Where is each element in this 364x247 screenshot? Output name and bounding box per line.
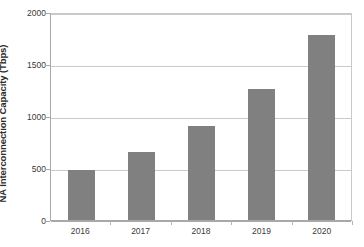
x-axis-tickmark (231, 221, 232, 225)
bar[interactable] (248, 89, 275, 220)
gridline (51, 221, 351, 222)
x-axis-tick-label: 2018 (171, 226, 231, 236)
bar-slot (111, 14, 171, 220)
y-axis-tick-label: 1500 (27, 60, 46, 70)
x-axis-tickmark (292, 221, 293, 225)
bar-slot (171, 14, 231, 220)
bar-series (51, 14, 351, 220)
bar[interactable] (68, 170, 95, 220)
x-axis-tick-label: 2016 (50, 226, 110, 236)
bar-slot (51, 14, 111, 220)
bar[interactable] (308, 35, 335, 220)
y-axis-tickmark (45, 13, 50, 14)
bar[interactable] (128, 152, 155, 220)
bar-chart: NA Interconnection Capacity (Tbps) 05001… (0, 0, 364, 247)
x-axis-tick-labels: 20162017201820192020 (50, 226, 352, 236)
x-axis-tick-label: 2017 (110, 226, 170, 236)
bar-slot (291, 14, 351, 220)
x-axis-tickmark (110, 221, 111, 225)
y-axis-tick-labels: 0500100015002000 (18, 13, 46, 221)
y-axis-tick-label: 2000 (27, 8, 46, 18)
bar[interactable] (188, 126, 215, 220)
y-axis-tick-label: 500 (32, 164, 46, 174)
x-axis-tick-label: 2019 (231, 226, 291, 236)
plot-area (50, 13, 352, 221)
x-axis-tickmark (171, 221, 172, 225)
y-axis-tickmark (45, 117, 50, 118)
y-axis-title: NA Interconnection Capacity (Tbps) (0, 0, 18, 247)
bar-slot (231, 14, 291, 220)
y-axis-tickmark (45, 65, 50, 66)
x-axis-tickmark (352, 221, 353, 225)
y-axis-tick-label: 1000 (27, 112, 46, 122)
y-axis-tickmark (45, 169, 50, 170)
x-axis-tick-label: 2020 (292, 226, 352, 236)
y-axis-tickmark (45, 221, 50, 222)
